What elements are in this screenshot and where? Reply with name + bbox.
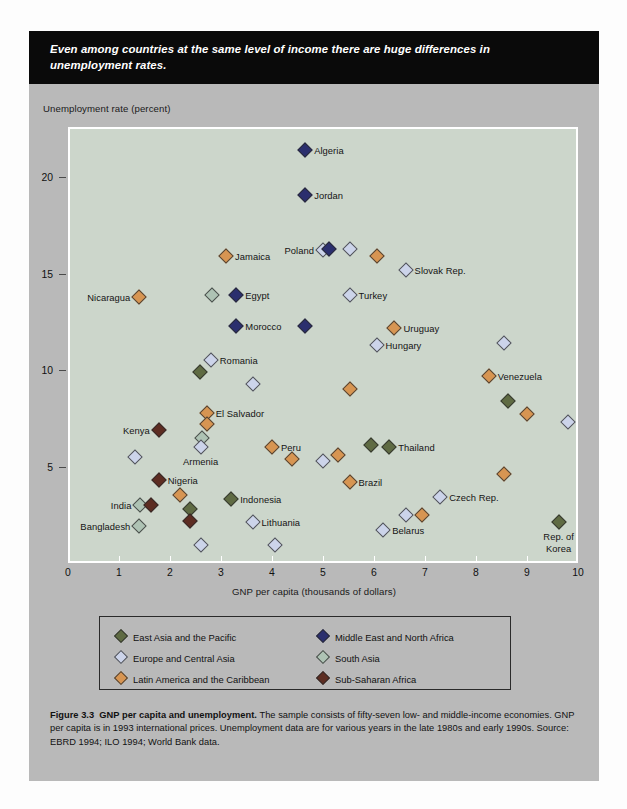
x-tick-6: [374, 556, 375, 562]
point-label-thailand: Thailand: [398, 442, 434, 453]
legend-swatch-south-asia: [316, 650, 330, 664]
x-tick-label-6: 6: [371, 567, 377, 578]
plot-wrapper: AlgeriaJordanJamaicaPolandSlovak Rep.Nic…: [68, 127, 578, 563]
point-label-armenia: Armenia: [172, 456, 230, 468]
x-tick-5: [323, 556, 324, 562]
y-tick-5: [59, 467, 66, 468]
x-tick-4: [272, 556, 273, 562]
caption-figure-number: Figure 3.3: [50, 710, 94, 720]
y-tick-label-10: 10: [41, 365, 53, 376]
legend-swatch-sub-saharan-africa: [316, 671, 330, 685]
point-label-nicaragua: Nicaragua: [87, 291, 130, 302]
point-label-bangladesh: Bangladesh: [80, 521, 130, 532]
x-tick-label-0: 0: [65, 567, 71, 578]
point-label-jordan: Jordan: [314, 189, 343, 200]
y-axis-title: Unemployment rate (percent): [43, 103, 170, 114]
x-tick-7: [425, 556, 426, 562]
legend-label-latin-america-and-the-caribbean: Latin America and the Caribbean: [133, 674, 270, 685]
y-tick-20: [59, 177, 66, 178]
x-tick-label-10: 10: [572, 567, 584, 578]
point-label-romania: Romania: [220, 355, 258, 366]
x-tick-label-4: 4: [269, 567, 275, 578]
legend-label-south-asia: South Asia: [335, 653, 380, 664]
caption-title: GNP per capita and unemployment.: [99, 710, 257, 720]
x-tick-label-7: 7: [422, 567, 428, 578]
legend-swatch-middle-east-and-north-africa: [316, 629, 330, 643]
x-tick-label-3: 3: [218, 567, 224, 578]
point-label-uruguay: Uruguay: [403, 322, 439, 333]
point-label-turkey: Turkey: [359, 289, 388, 300]
x-tick-9: [527, 556, 528, 562]
point-label-czech-rep: Czech Rep.: [449, 492, 498, 503]
point-label-india: India: [111, 500, 132, 511]
point-label-nigeria: Nigeria: [168, 475, 198, 486]
x-tick-label-5: 5: [320, 567, 326, 578]
x-tick-label-8: 8: [473, 567, 479, 578]
y-tick-label-5: 5: [47, 461, 53, 472]
point-label-hungary: Hungary: [386, 340, 422, 351]
point-label-el-salvador: El Salvador: [216, 407, 265, 418]
x-axis-title: GNP per capita (thousands of dollars): [29, 586, 599, 597]
x-tick-2: [170, 556, 171, 562]
point-label-egypt: Egypt: [245, 289, 269, 300]
legend-label-east-asia-and-the-pacific: East Asia and the Pacific: [133, 632, 236, 643]
banner-text: Even among countries at the same level o…: [50, 42, 570, 73]
legend-label-sub-saharan-africa: Sub-Saharan Africa: [335, 674, 416, 685]
x-tick-1: [119, 556, 120, 562]
figure-panel: Even among countries at the same level o…: [29, 31, 599, 781]
legend-swatch-europe-and-central-asia: [114, 650, 128, 664]
point-label-slovak-rep: Slovak Rep.: [415, 264, 466, 275]
legend-swatch-east-asia-and-the-pacific: [114, 629, 128, 643]
point-label-rep-of-korea: Rep. of Korea: [530, 531, 588, 554]
point-label-morocco: Morocco: [245, 320, 281, 331]
legend-label-middle-east-and-north-africa: Middle East and North Africa: [335, 632, 454, 643]
point-label-algeria: Algeria: [314, 145, 344, 156]
x-tick-label-2: 2: [167, 567, 173, 578]
legend-label-europe-and-central-asia: Europe and Central Asia: [133, 653, 235, 664]
point-label-poland: Poland: [285, 245, 315, 256]
x-tick-label-9: 9: [524, 567, 530, 578]
y-tick-15: [59, 274, 66, 275]
y-tick-label-20: 20: [41, 172, 53, 183]
y-tick-10: [59, 370, 66, 371]
point-label-lithuania: Lithuania: [262, 517, 301, 528]
page-root: Even among countries at the same level o…: [0, 0, 627, 809]
chart-legend: East Asia and the PacificEurope and Cent…: [99, 616, 511, 690]
y-tick-label-15: 15: [41, 268, 53, 279]
point-label-jamaica: Jamaica: [235, 251, 270, 262]
figure-caption: Figure 3.3 GNP per capita and unemployme…: [50, 709, 578, 749]
point-label-kenya: Kenya: [123, 424, 150, 435]
x-tick-3: [221, 556, 222, 562]
figure-banner: Even among countries at the same level o…: [29, 31, 599, 84]
point-label-belarus: Belarus: [392, 525, 424, 536]
legend-swatch-latin-america-and-the-caribbean: [114, 671, 128, 685]
point-label-venezuela: Venezuela: [498, 370, 542, 381]
point-label-indonesia: Indonesia: [240, 494, 281, 505]
x-tick-label-1: 1: [116, 567, 122, 578]
point-label-brazil: Brazil: [359, 476, 383, 487]
x-tick-8: [476, 556, 477, 562]
